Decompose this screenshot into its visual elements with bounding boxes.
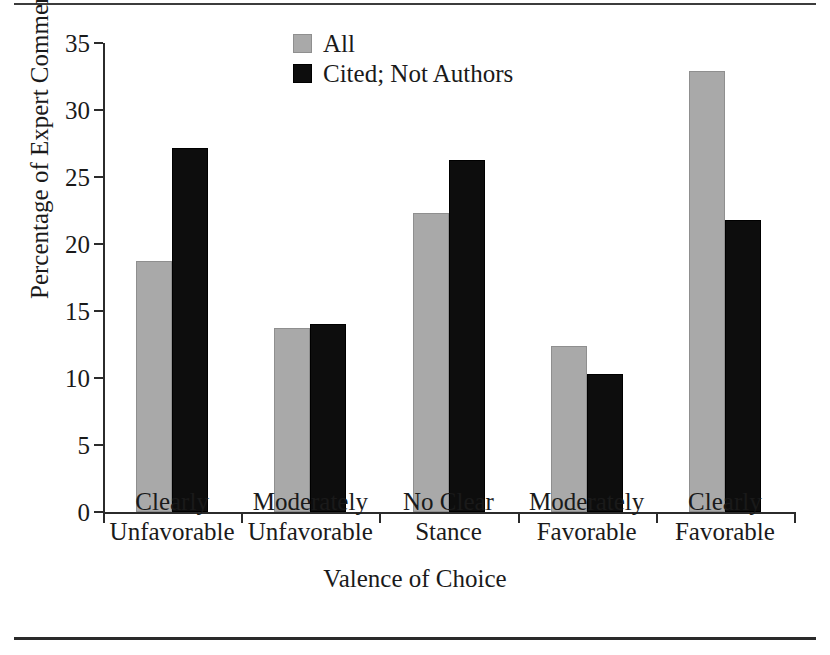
x-category-label: ClearlyFavorable xyxy=(648,487,802,546)
x-category-label-line: Clearly xyxy=(95,487,249,517)
y-tick-label: 30 xyxy=(65,98,90,123)
legend-label-all: All xyxy=(323,31,355,56)
x-category-label-line: Stance xyxy=(371,517,525,547)
bar-cited-not-authors xyxy=(725,220,761,512)
bar-cited-not-authors xyxy=(449,160,485,512)
y-tick-label: 10 xyxy=(65,366,90,391)
x-category-label-line: Unfavorable xyxy=(233,517,387,547)
y-axis-line xyxy=(103,43,105,513)
x-axis-title: Valence of Choice xyxy=(0,565,830,593)
y-tick-mark xyxy=(94,310,103,312)
black-swatch-icon xyxy=(293,64,312,83)
y-tick-label: 35 xyxy=(65,31,90,56)
y-tick-label: 0 xyxy=(78,500,91,525)
y-tick-mark xyxy=(94,109,103,111)
legend-entry-cited-not-authors: Cited; Not Authors xyxy=(293,58,513,88)
y-tick-label: 15 xyxy=(65,299,90,324)
figure-bar-chart: Percentage of Expert Comments 0510152025… xyxy=(0,0,830,655)
y-tick-mark xyxy=(94,377,103,379)
x-category-label-line: Favorable xyxy=(648,517,802,547)
x-category-label: No ClearStance xyxy=(371,487,525,546)
bar-group xyxy=(274,43,346,512)
y-tick-label: 25 xyxy=(65,165,90,190)
bar-cited-not-authors xyxy=(172,148,208,512)
y-axis-title: Percentage of Expert Comments xyxy=(26,0,54,299)
bar-group xyxy=(551,43,623,512)
bar-group xyxy=(136,43,208,512)
bar-all xyxy=(274,328,310,512)
y-tick-label: 5 xyxy=(78,433,91,458)
x-category-label: ModeratelyFavorable xyxy=(510,487,664,546)
x-category-label-line: Clearly xyxy=(648,487,802,517)
x-category-label-line: Unfavorable xyxy=(95,517,249,547)
x-category-label: ClearlyUnfavorable xyxy=(95,487,249,546)
bar-all xyxy=(136,261,172,512)
x-category-label-line: Moderately xyxy=(233,487,387,517)
x-category-label-line: Moderately xyxy=(510,487,664,517)
y-tick-mark xyxy=(94,444,103,446)
top-divider-rule xyxy=(14,3,816,5)
y-tick-mark xyxy=(94,42,103,44)
bar-all xyxy=(413,213,449,512)
bottom-divider-rule xyxy=(14,637,816,640)
x-category-label-line: No Clear xyxy=(371,487,525,517)
bar-cited-not-authors xyxy=(310,324,346,512)
y-tick-mark xyxy=(94,176,103,178)
chart-legend: All Cited; Not Authors xyxy=(293,28,513,88)
gray-swatch-icon xyxy=(293,34,312,53)
x-category-label: ModeratelyUnfavorable xyxy=(233,487,387,546)
bar-group xyxy=(413,43,485,512)
x-category-label-line: Favorable xyxy=(510,517,664,547)
legend-entry-all: All xyxy=(293,28,513,58)
y-tick-mark xyxy=(94,243,103,245)
bar-all xyxy=(689,71,725,512)
bar-group xyxy=(689,43,761,512)
y-tick-label: 20 xyxy=(65,232,90,257)
legend-label-cited-not-authors: Cited; Not Authors xyxy=(323,61,513,86)
plot-area: 05101520253035 xyxy=(103,43,793,512)
